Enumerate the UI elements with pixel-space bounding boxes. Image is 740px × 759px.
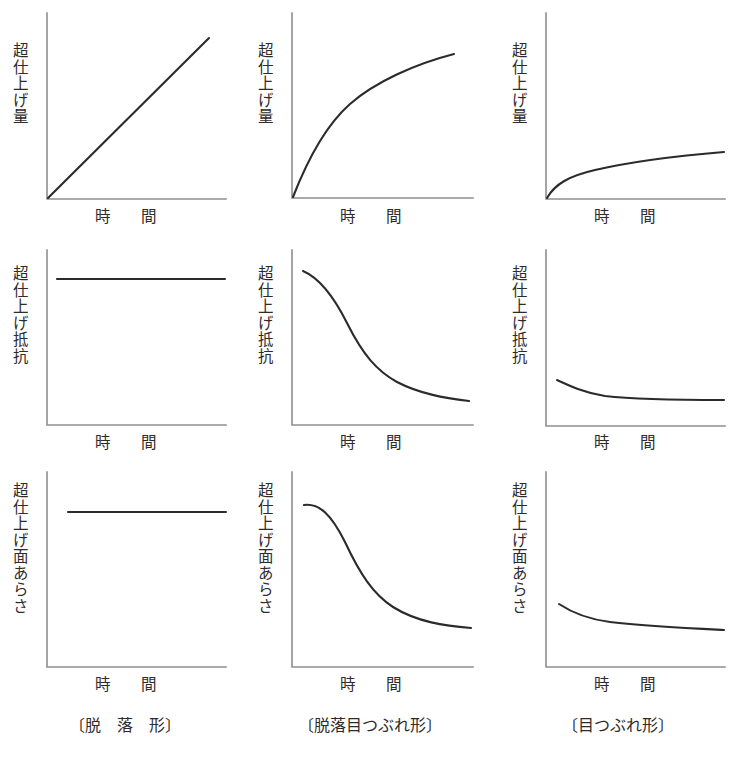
axis-lines bbox=[47, 250, 226, 425]
x-axis-label: 時 間 bbox=[95, 204, 164, 226]
curve-removal-glaze bbox=[547, 152, 724, 198]
chart-r3c1-plot bbox=[0, 462, 246, 690]
y-axis-label: 超仕上げ抵抗 bbox=[10, 265, 26, 364]
curve-roughness-shed-glaze bbox=[304, 505, 471, 628]
y-axis-label: 超仕上げ面あらさ bbox=[509, 482, 525, 614]
chart-r1c3: 超仕上げ量 時 間 bbox=[495, 6, 740, 234]
curve-removal-shedding bbox=[48, 38, 209, 198]
y-axis-label: 超仕上げ抵抗 bbox=[509, 265, 525, 364]
axis-lines bbox=[292, 13, 473, 198]
axis-lines bbox=[292, 250, 473, 425]
chart-r1c1-plot bbox=[0, 6, 246, 234]
chart-r3c2-plot bbox=[245, 462, 491, 690]
x-axis-label: 時 間 bbox=[594, 430, 663, 452]
chart-r1c2-plot bbox=[245, 6, 491, 234]
x-axis-label: 時 間 bbox=[95, 672, 164, 694]
chart-r2c2: 超仕上げ抵抗 時 間 bbox=[245, 243, 491, 471]
curve-resistance-shed-glaze bbox=[303, 271, 469, 401]
curve-roughness-glaze bbox=[559, 604, 724, 630]
chart-r2c3: 超仕上げ抵抗 時 間 bbox=[495, 243, 740, 471]
axis-lines bbox=[47, 472, 226, 667]
caption-col3: 〔目つぶれ形〕 bbox=[495, 712, 740, 736]
chart-r3c2: 超仕上げ面あらさ 時 間 bbox=[245, 462, 491, 690]
y-axis-label: 超仕上げ面あらさ bbox=[255, 482, 271, 614]
y-axis-label: 超仕上げ抵抗 bbox=[255, 265, 271, 364]
chart-r1c2: 超仕上げ量 時 間 bbox=[245, 6, 491, 234]
axis-lines bbox=[546, 472, 725, 667]
axis-lines bbox=[292, 472, 473, 667]
chart-r1c1: 超仕上げ量 時 間 bbox=[0, 6, 246, 234]
chart-r3c1: 超仕上げ面あらさ 時 間 bbox=[0, 462, 246, 690]
x-axis-label: 時 間 bbox=[340, 430, 409, 452]
chart-r1c3-plot bbox=[495, 6, 740, 234]
curve-removal-shed-glaze bbox=[293, 54, 454, 197]
y-axis-label: 超仕上げ量 bbox=[10, 42, 26, 125]
y-axis-label: 超仕上げ面あらさ bbox=[10, 482, 26, 614]
chart-r3c3: 超仕上げ面あらさ 時 間 bbox=[495, 462, 740, 690]
curve-resistance-glaze bbox=[557, 380, 724, 400]
caption-col1: 〔脱 落 形〕 bbox=[0, 712, 250, 736]
y-axis-label: 超仕上げ量 bbox=[255, 42, 271, 125]
x-axis-label: 時 間 bbox=[340, 204, 409, 226]
x-axis-label: 時 間 bbox=[594, 204, 663, 226]
y-axis-label: 超仕上げ量 bbox=[509, 42, 525, 125]
axis-lines bbox=[546, 13, 725, 199]
x-axis-label: 時 間 bbox=[340, 672, 409, 694]
figure-grid: 超仕上げ量 時 間 超仕上げ量 時 間 超仕上げ量 時 間 超仕上げ抵抗 時 間 bbox=[0, 0, 740, 759]
x-axis-label: 時 間 bbox=[594, 672, 663, 694]
caption-col2: 〔脱落目つぶれ形〕 bbox=[245, 712, 495, 736]
x-axis-label: 時 間 bbox=[95, 430, 164, 452]
chart-r2c1: 超仕上げ抵抗 時 間 bbox=[0, 243, 246, 471]
chart-r3c3-plot bbox=[495, 462, 740, 690]
